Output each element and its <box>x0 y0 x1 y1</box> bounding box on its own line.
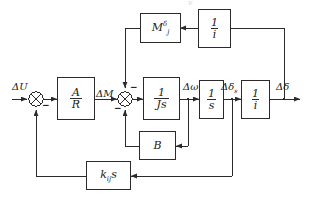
damping-b-label: B <box>153 140 161 151</box>
block-diagram-canvas: Mδj 1 i A R 1 Js 1 s 1 i <box>0 0 309 199</box>
input-signal-label: ΔU <box>12 82 28 92</box>
angle-s-signal-label: Δδs <box>221 82 237 94</box>
inertia-block[interactable]: 1 Js <box>143 77 180 120</box>
damping-b-block[interactable]: B <box>139 131 176 160</box>
gear-ratio-block[interactable]: 1 i <box>241 80 270 119</box>
torque-signal-label: ΔM <box>96 89 113 99</box>
summing-junction-input-minus: − <box>42 101 50 110</box>
fraction: A R <box>70 87 82 110</box>
scan-artifact: v <box>188 0 193 7</box>
fraction: 1 i <box>209 17 220 40</box>
fraction: 1 Js <box>154 87 168 110</box>
gain-a-over-r-block[interactable]: A R <box>57 77 95 120</box>
stabilizer-gain-block[interactable]: kijs <box>86 161 131 190</box>
gear-ratio-feedback-block[interactable]: 1 i <box>198 9 231 48</box>
moment-coefficient-block[interactable]: Mδj <box>140 13 181 43</box>
summing-junction-torque-minus-top: − <box>130 83 138 92</box>
output-signal-label: Δδ <box>276 82 289 92</box>
moment-coefficient-label: Mδj <box>152 21 170 36</box>
fraction: 1 i <box>250 88 261 111</box>
stabilizer-gain-label: kijs <box>100 169 117 183</box>
fraction: 1 s <box>206 88 217 111</box>
summing-junction-torque-minus-bottom: − <box>114 104 122 113</box>
speed-signal-label: Δω <box>183 82 198 92</box>
